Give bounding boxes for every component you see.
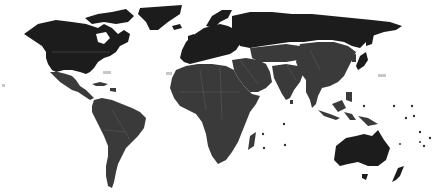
- region-tasmania[interactable]: [362, 174, 368, 180]
- region-canada-arctic[interactable]: [85, 9, 134, 24]
- region-mexico-central-america[interactable]: [50, 72, 94, 100]
- region-uk[interactable]: [188, 34, 194, 44]
- region-iceland[interactable]: [172, 24, 182, 30]
- world-map: [0, 0, 438, 193]
- region-china-east-asia[interactable]: [296, 42, 356, 88]
- region-central-asia[interactable]: [250, 44, 304, 62]
- region-indonesia[interactable]: [318, 110, 340, 120]
- region-north-america[interactable]: [24, 20, 130, 74]
- region-new-zealand[interactable]: [392, 166, 404, 182]
- region-japan[interactable]: [356, 52, 368, 70]
- region-australia[interactable]: [334, 130, 390, 166]
- region-madagascar[interactable]: [248, 132, 256, 150]
- region-caribbean[interactable]: [92, 82, 108, 86]
- region-south-asia[interactable]: [272, 64, 304, 100]
- region-philippines[interactable]: [346, 92, 352, 102]
- region-south-america[interactable]: [92, 98, 146, 188]
- region-kamchatka[interactable]: [366, 34, 374, 46]
